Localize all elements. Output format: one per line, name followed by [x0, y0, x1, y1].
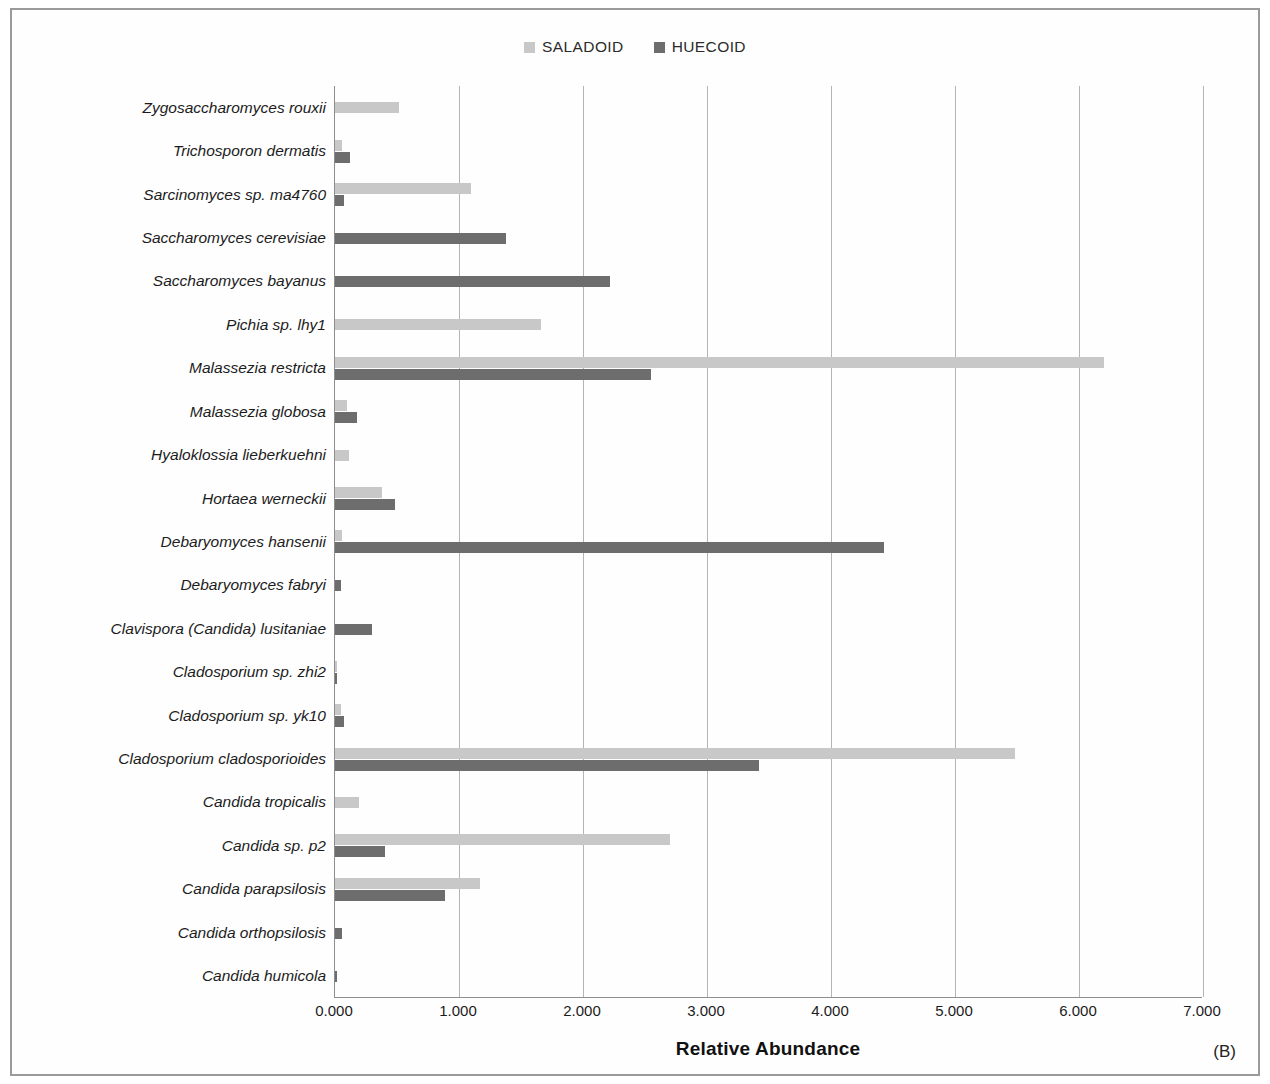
- bar-row: [335, 607, 1202, 650]
- bar-huecoid: [335, 276, 610, 287]
- bar-row: [335, 694, 1202, 737]
- bar-huecoid: [335, 971, 337, 982]
- bar-row: [335, 781, 1202, 824]
- bar-row: [335, 824, 1202, 867]
- bar-huecoid: [335, 716, 344, 727]
- bar-huecoid: [335, 760, 759, 771]
- legend-swatch-saladoid: [524, 42, 535, 53]
- category-label: Hortaea werneckii: [26, 477, 326, 520]
- legend-item-saladoid: SALADOID: [524, 38, 624, 56]
- category-label: Cladosporium sp. zhi2: [26, 650, 326, 693]
- x-tick-label: 4.000: [811, 1002, 849, 1019]
- bar-row: [335, 129, 1202, 172]
- bar-saladoid: [335, 183, 471, 194]
- bar-row: [335, 868, 1202, 911]
- bar-saladoid: [335, 487, 382, 498]
- bar-saladoid: [335, 357, 1104, 368]
- category-label: Pichia sp. lhy1: [26, 303, 326, 346]
- bar-row: [335, 737, 1202, 780]
- category-label: Candida humicola: [26, 954, 326, 997]
- bar-saladoid: [335, 400, 347, 411]
- x-axis-title: Relative Abundance: [334, 1038, 1202, 1060]
- bar-saladoid: [335, 704, 341, 715]
- x-tick-label: 2.000: [563, 1002, 601, 1019]
- bar-huecoid: [335, 412, 357, 423]
- bar-saladoid: [335, 140, 342, 151]
- chart-legend: SALADOID HUECOID: [12, 38, 1258, 56]
- bar-row: [335, 86, 1202, 129]
- category-label: Saccharomyces bayanus: [26, 260, 326, 303]
- bar-row: [335, 911, 1202, 954]
- category-label: Sarcinomyces sp. ma4760: [26, 173, 326, 216]
- category-label: Cladosporium cladosporioides: [26, 737, 326, 780]
- category-label: Saccharomyces cerevisiae: [26, 216, 326, 259]
- category-label: Hyaloklossia lieberkuehni: [26, 433, 326, 476]
- category-label: Trichosporon dermatis: [26, 129, 326, 172]
- bar-row: [335, 216, 1202, 259]
- bar-saladoid: [335, 530, 342, 541]
- bar-row: [335, 954, 1202, 997]
- bar-saladoid: [335, 102, 399, 113]
- category-label: Candida sp. p2: [26, 824, 326, 867]
- gridline: [1203, 86, 1204, 997]
- legend-label-saladoid: SALADOID: [542, 38, 624, 56]
- category-label: Cladosporium sp. yk10: [26, 694, 326, 737]
- legend-label-huecoid: HUECOID: [672, 38, 746, 56]
- category-label: Candida tropicalis: [26, 781, 326, 824]
- category-label: Candida orthopsilosis: [26, 911, 326, 954]
- category-label: Malassezia restricta: [26, 347, 326, 390]
- legend-item-huecoid: HUECOID: [654, 38, 746, 56]
- bar-saladoid: [335, 797, 359, 808]
- bar-saladoid: [335, 450, 349, 461]
- x-tick-label: 7.000: [1183, 1002, 1221, 1019]
- x-axis-ticks: 0.0001.0002.0003.0004.0005.0006.0007.000: [334, 1002, 1202, 1026]
- bar-saladoid: [335, 748, 1015, 759]
- bar-huecoid: [335, 624, 372, 635]
- bar-huecoid: [335, 542, 884, 553]
- bar-huecoid: [335, 499, 395, 510]
- bar-row: [335, 390, 1202, 433]
- bar-huecoid: [335, 928, 342, 939]
- x-tick-label: 6.000: [1059, 1002, 1097, 1019]
- category-label: Zygosaccharomyces rouxii: [26, 86, 326, 129]
- bar-row: [335, 173, 1202, 216]
- x-tick-label: 3.000: [687, 1002, 725, 1019]
- category-axis-labels: Zygosaccharomyces rouxiiTrichosporon der…: [26, 86, 326, 998]
- figure-frame: SALADOID HUECOID Zygosaccharomyces rouxi…: [10, 8, 1260, 1076]
- panel-tag: (B): [1213, 1042, 1236, 1062]
- bar-huecoid: [335, 673, 337, 684]
- bar-saladoid: [335, 834, 670, 845]
- bar-rows: [335, 86, 1202, 997]
- category-label: Clavispora (Candida) lusitaniae: [26, 607, 326, 650]
- x-tick-label: 1.000: [439, 1002, 477, 1019]
- bar-saladoid: [335, 661, 337, 672]
- bar-row: [335, 564, 1202, 607]
- bar-row: [335, 260, 1202, 303]
- category-label: Debaryomyces hansenii: [26, 520, 326, 563]
- bar-saladoid: [335, 319, 541, 330]
- bar-huecoid: [335, 890, 445, 901]
- bar-huecoid: [335, 369, 651, 380]
- bar-row: [335, 347, 1202, 390]
- bar-huecoid: [335, 152, 350, 163]
- bar-row: [335, 303, 1202, 346]
- category-label: Malassezia globosa: [26, 390, 326, 433]
- legend-swatch-huecoid: [654, 42, 665, 53]
- bar-row: [335, 433, 1202, 476]
- category-label: Debaryomyces fabryi: [26, 564, 326, 607]
- plot-area: [334, 86, 1202, 998]
- bar-saladoid: [335, 878, 480, 889]
- bar-huecoid: [335, 195, 344, 206]
- x-tick-label: 0.000: [315, 1002, 353, 1019]
- bar-row: [335, 477, 1202, 520]
- bar-huecoid: [335, 846, 385, 857]
- category-label: Candida parapsilosis: [26, 868, 326, 911]
- bar-huecoid: [335, 580, 341, 591]
- bar-row: [335, 650, 1202, 693]
- x-tick-label: 5.000: [935, 1002, 973, 1019]
- bar-huecoid: [335, 233, 506, 244]
- bar-row: [335, 520, 1202, 563]
